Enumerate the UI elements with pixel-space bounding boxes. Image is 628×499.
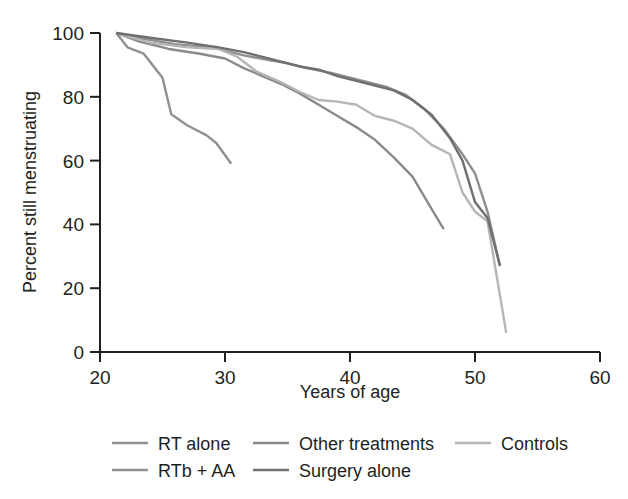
chart-axes (100, 33, 600, 352)
x-tick-label: 20 (89, 367, 110, 388)
legend-label: Surgery alone (299, 461, 411, 481)
chart-figure: 020406080100 2030405060 Years of age Per… (0, 0, 628, 499)
y-tick-label: 60 (63, 151, 84, 172)
legend-label: Other treatments (299, 434, 434, 454)
legend-label: RT alone (158, 434, 230, 454)
legend-label: RTb + AA (158, 461, 235, 481)
chart-legend: RT aloneOther treatmentsControlsRTb + AA… (112, 434, 568, 481)
y-tick-label: 0 (73, 342, 84, 363)
y-tick-label: 80 (63, 87, 84, 108)
x-tick-label: 60 (589, 367, 610, 388)
x-axis-title: Years of age (300, 382, 400, 402)
y-axis-ticks: 020406080100 (52, 23, 100, 363)
y-tick-label: 100 (52, 23, 84, 44)
y-axis-title: Percent still menstruating (20, 91, 40, 293)
legend-label: Controls (501, 434, 568, 454)
x-tick-label: 50 (464, 367, 485, 388)
series-line-controls (116, 33, 506, 333)
series-line-rtb-aa (116, 33, 231, 164)
line-chart-canvas: 020406080100 2030405060 Years of age Per… (0, 0, 628, 499)
y-tick-label: 40 (63, 214, 84, 235)
y-tick-label: 20 (63, 278, 84, 299)
x-tick-label: 30 (214, 367, 235, 388)
chart-series-group (116, 33, 506, 333)
